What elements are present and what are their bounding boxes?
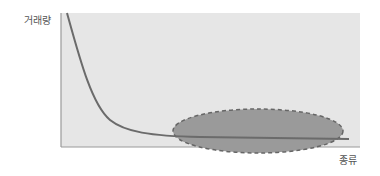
long-tail-chart [0,0,380,176]
long-tail-highlight [173,109,343,153]
x-axis-label: 종류 [339,152,357,167]
y-axis-label: 거래량 [24,12,51,27]
